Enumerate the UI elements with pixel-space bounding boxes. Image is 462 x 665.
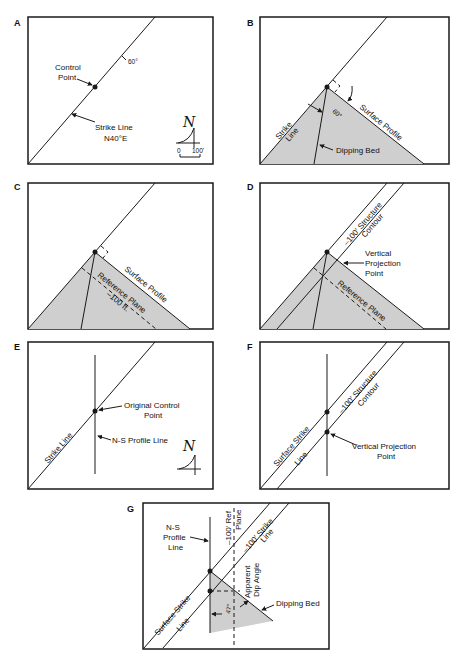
panel-c: C Surface Profile Reference Plane –100 f… [14,182,213,329]
control-point-marker [325,410,330,415]
panel-g-label: G [127,504,134,514]
vertical-projection-point-marker [208,589,213,594]
ocp-label-2: Point [144,411,163,420]
vpp-label-3: Point [365,269,384,278]
control-point-label-2: Point [58,73,77,82]
svg-text:N: N [182,114,196,130]
apparent-dip-label-1: Apparent [243,565,252,598]
control-point-marker [93,250,98,255]
vertical-projection-point-marker [325,430,330,435]
panel-f-frame [260,342,449,489]
panel-b-label: B [247,18,254,28]
vpp-label-2: Point [377,452,396,461]
control-point-marker [93,85,98,90]
ocp-label-1: Original Control [124,401,180,410]
panel-d-label: D [247,182,254,192]
ns-profile-label-1: N-S [166,523,180,532]
strike-line-label-1: Strike Line [95,123,133,132]
control-point-marker [208,569,213,574]
vpp-label-1: Vertical [365,249,391,258]
panel-f-label: F [247,342,253,352]
panel-c-label: C [14,182,21,192]
control-point-marker [325,250,330,255]
panel-f: F Surface Strike Line –100' Structure Co… [247,342,449,489]
panel-b: B 60° Surface Profile Strike Line Dippin… [247,17,449,164]
scale-end: 100' [192,147,204,154]
dip-label: 60° [128,58,138,65]
ref-plane-label-2: Plane [234,509,243,530]
panel-e-label: E [14,342,20,352]
vpp-label-2: Projection [365,259,401,268]
apparent-dip-label-2: Dip Angle [252,562,261,597]
ref-plane-label-1: –100' Ref [224,510,233,545]
structure-contour-figure: A 60° Control Point Strike Line N40°E N … [0,0,462,665]
dipping-bed-label: Dipping Bed [336,146,380,155]
ns-profile-label: N-S Profile Line [112,436,169,445]
panel-d: D –100' Structure Contour Vertical Proje… [247,182,449,329]
svg-text:N: N [182,438,196,454]
panel-g: G N-S Profile Line –100' Ref Plane –100'… [127,503,329,649]
control-point-marker [325,85,330,90]
ns-profile-label-3: Line [168,543,184,552]
vpp-label-1: Vertical Projection [352,442,416,451]
strike-line-label-2: N40°E [104,134,127,143]
dipping-bed-label: Dipping Bed [276,599,320,608]
panel-a-label: A [14,18,21,28]
control-point-label-1: Control [55,63,81,72]
ns-profile-label-2: Profile [163,533,186,542]
panel-a: A 60° Control Point Strike Line N40°E N … [14,17,213,164]
original-control-point-marker [93,409,98,414]
scale-start: 0 [177,147,181,154]
panel-e: E Strike Line Original Control Point N-S… [14,342,213,489]
